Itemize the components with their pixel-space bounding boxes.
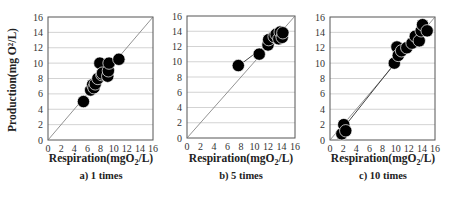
x-tick-label: 2 (198, 141, 203, 152)
data-point (277, 27, 289, 39)
x-tick-label: 12 (263, 141, 273, 152)
y-tick-label: 0 (320, 135, 325, 146)
x-tick-label: 8 (239, 141, 244, 152)
data-point (77, 95, 89, 107)
y-tick-label: 2 (320, 119, 325, 130)
x-axis-label-b: Respiration(mgO2/L) (171, 152, 311, 167)
y-tick-label: 14 (172, 26, 182, 37)
y-tick-label: 14 (33, 27, 43, 38)
x-tick-label: 6 (225, 141, 230, 152)
x-tick-label: 4 (212, 141, 217, 152)
y-axis-label-text: Production(mg O²/L) (6, 28, 18, 132)
y-tick-label: 8 (177, 72, 182, 83)
y-tick-label: 16 (172, 11, 182, 22)
y-tick-label: 2 (177, 117, 182, 128)
panel-caption-c: c) 10 times (313, 170, 453, 181)
x-tick-label: 16 (290, 141, 300, 152)
data-point (232, 59, 244, 71)
data-point (113, 53, 125, 65)
y-tick-label: 0 (38, 135, 43, 146)
y-tick-label: 2 (38, 119, 43, 130)
x-axis-label-a: Respiration(mgO2/L) (31, 152, 171, 167)
y-tick-label: 4 (177, 102, 182, 113)
y-tick-label: 6 (38, 88, 43, 99)
y-tick-label: 0 (177, 133, 182, 144)
y-tick-label: 6 (320, 88, 325, 99)
data-point (421, 25, 433, 37)
y-tick-label: 12 (33, 42, 43, 53)
y-tick-label: 4 (38, 104, 43, 115)
y-tick-label: 8 (320, 73, 325, 84)
x-tick-label: 14 (277, 141, 287, 152)
y-axis-label: Production(mg O²/L) (1, 20, 23, 140)
y-tick-label: 16 (33, 12, 43, 23)
x-tick-label: 10 (250, 141, 260, 152)
scatter-panel-a: 02468101214160246810121416 (33, 12, 158, 155)
y-tick-label: 10 (33, 58, 43, 69)
y-tick-label: 14 (315, 27, 325, 38)
panel-caption-b: b) 5 times (171, 170, 311, 181)
y-tick-label: 6 (177, 87, 182, 98)
panel-caption-a: a) 1 times (31, 170, 171, 181)
y-tick-label: 12 (315, 42, 325, 53)
y-tick-label: 10 (172, 56, 182, 67)
scatter-panel-b: 02468101214160246810121416 (172, 11, 300, 153)
figure: 0246810121416024681012141602468101214160… (0, 0, 456, 199)
y-tick-label: 4 (320, 104, 325, 115)
x-axis-label-c: Respiration(mgO2/L) (313, 152, 453, 167)
x-tick-label: 0 (185, 141, 190, 152)
y-tick-label: 12 (172, 41, 182, 52)
y-tick-label: 8 (38, 73, 43, 84)
scatter-panel-c: 02468101214160246810121416 (315, 12, 440, 155)
data-point (340, 125, 352, 137)
y-tick-label: 10 (315, 58, 325, 69)
y-tick-label: 16 (315, 12, 325, 23)
